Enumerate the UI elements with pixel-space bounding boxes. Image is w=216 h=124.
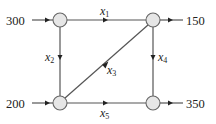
external-outflow-150: 150 bbox=[160, 14, 205, 28]
inflow-300-label: 300 bbox=[6, 14, 25, 28]
arrow-down-icon bbox=[151, 55, 156, 60]
arrow-right-icon bbox=[45, 18, 50, 23]
outflow-150-label: 150 bbox=[186, 14, 205, 28]
external-outflow-350: 350 bbox=[160, 97, 205, 111]
edge-x1: x1 bbox=[67, 4, 146, 23]
network-flow-diagram: 300 200 150 350 x1 x2 x3 x4 bbox=[0, 0, 216, 124]
edge-x3-line bbox=[65, 25, 148, 98]
edge-x5: x5 bbox=[67, 101, 146, 122]
edge-x2: x2 bbox=[44, 27, 63, 96]
edge-x5-label: x5 bbox=[99, 106, 109, 121]
arrow-right-icon bbox=[45, 101, 50, 106]
arrow-down-icon bbox=[58, 55, 63, 60]
arrow-right-icon bbox=[103, 101, 108, 106]
node-top-right bbox=[146, 13, 160, 27]
edge-x2-label: x2 bbox=[44, 50, 54, 65]
arrow-right-icon bbox=[168, 101, 173, 106]
edge-x1-label: x1 bbox=[99, 4, 109, 19]
node-bottom-right bbox=[146, 96, 160, 110]
external-inflow-200: 200 bbox=[6, 97, 53, 111]
edge-x4: x4 bbox=[151, 27, 168, 96]
external-inflow-300: 300 bbox=[6, 14, 53, 28]
edge-x4-label: x4 bbox=[157, 50, 167, 65]
node-bottom-left bbox=[53, 96, 67, 110]
node-top-left bbox=[53, 13, 67, 27]
edge-x3-label: x3 bbox=[106, 63, 116, 78]
inflow-200-label: 200 bbox=[6, 97, 25, 111]
arrow-right-icon bbox=[168, 18, 173, 23]
outflow-350-label: 350 bbox=[186, 97, 205, 111]
edge-x3: x3 bbox=[65, 25, 148, 98]
